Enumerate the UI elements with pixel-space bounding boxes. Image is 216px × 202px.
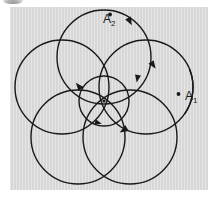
- figure-root: A2 A1: [0, 0, 216, 202]
- label-a1-text: A: [185, 89, 193, 103]
- orbit-diagram-svg: [0, 0, 216, 202]
- label-a2: A2: [103, 13, 115, 28]
- label-a1-subscript: 1: [193, 96, 197, 105]
- tick-marker-group: [108, 13, 180, 96]
- outer-circle-lower-left: [31, 90, 125, 184]
- arrowhead-top-right: [125, 16, 135, 26]
- label-a1: A1: [185, 90, 197, 105]
- label-a2-text: A: [103, 12, 111, 26]
- label-a2-subscript: 2: [111, 19, 115, 28]
- arrowhead-right-mid: [134, 74, 141, 83]
- outer-circle-lower-right: [83, 90, 177, 184]
- outer-circle-left: [15, 40, 109, 134]
- tick-marker-a1: [177, 92, 181, 96]
- center-dot: [102, 99, 105, 102]
- outer-circle-right: [99, 40, 193, 134]
